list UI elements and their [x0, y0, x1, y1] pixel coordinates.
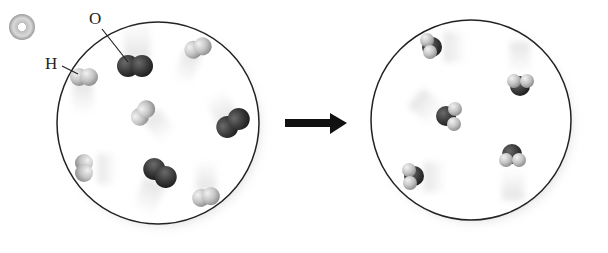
products-container	[371, 20, 576, 226]
reactants-container	[57, 22, 264, 230]
container-circle	[371, 20, 571, 220]
cd-icon[interactable]	[9, 14, 35, 40]
h2-molecule	[75, 154, 93, 182]
o2-molecule	[117, 55, 153, 77]
reaction-diagram	[0, 0, 608, 253]
reaction-arrow	[285, 113, 347, 134]
oxygen-label: O	[89, 10, 101, 27]
h2-molecule	[70, 68, 98, 86]
hydrogen-label: H	[45, 55, 57, 72]
